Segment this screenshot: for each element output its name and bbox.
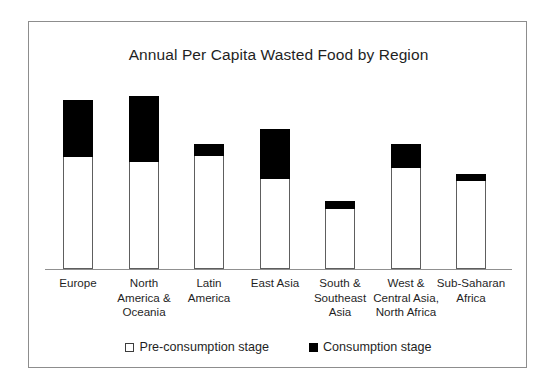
legend-item-consumption[interactable]: Consumption stage bbox=[309, 340, 432, 354]
bar-segment-consumption[interactable] bbox=[129, 96, 159, 162]
bar-stack bbox=[325, 201, 355, 269]
bar-segment-consumption[interactable] bbox=[325, 201, 355, 209]
bar-segment-pre-consumption[interactable] bbox=[391, 168, 421, 269]
bar-stack bbox=[63, 100, 93, 269]
bar-segment-consumption[interactable] bbox=[391, 144, 421, 168]
bar-segment-consumption[interactable] bbox=[260, 129, 290, 179]
bar-segment-pre-consumption[interactable] bbox=[63, 157, 93, 269]
bar-group-sub-saharan-africa bbox=[456, 174, 486, 269]
plot-area bbox=[29, 22, 528, 270]
x-axis-line bbox=[45, 269, 512, 270]
bar-group-europe bbox=[63, 100, 93, 269]
category-label-line: North Africa bbox=[363, 305, 449, 320]
bar-segment-pre-consumption[interactable] bbox=[194, 156, 224, 269]
bar-segment-consumption[interactable] bbox=[456, 174, 486, 181]
bar-stack bbox=[260, 129, 290, 269]
bar-group-west-central-asia-north-africa bbox=[391, 144, 421, 269]
bar-segment-consumption[interactable] bbox=[194, 144, 224, 156]
legend-swatch-white-square-icon bbox=[125, 343, 134, 352]
bar-segment-pre-consumption[interactable] bbox=[456, 181, 486, 269]
bar-group-east-asia bbox=[260, 129, 290, 269]
chart-legend: Pre-consumption stage Consumption stage bbox=[29, 340, 528, 354]
bar-group-south-southeast-asia bbox=[325, 201, 355, 269]
category-label-line: Sub-Saharan bbox=[429, 276, 513, 291]
chart-frame: Annual Per Capita Wasted Food by Region bbox=[28, 21, 527, 368]
category-label-line: Oceania bbox=[104, 305, 184, 320]
category-label-line: Africa bbox=[429, 291, 513, 306]
category-label-line: America bbox=[169, 291, 249, 306]
bar-segment-pre-consumption[interactable] bbox=[260, 179, 290, 269]
legend-item-pre-consumption[interactable]: Pre-consumption stage bbox=[125, 340, 269, 354]
bar-group-north-america-oceania bbox=[129, 96, 159, 269]
x-axis-category-labels: Europe North America & Oceania Latin Ame… bbox=[29, 272, 528, 338]
bar-segment-pre-consumption[interactable] bbox=[129, 162, 159, 269]
category-label-sub-saharan-africa: Sub-Saharan Africa bbox=[429, 276, 513, 305]
bar-segment-pre-consumption[interactable] bbox=[325, 209, 355, 269]
bar-stack bbox=[194, 144, 224, 269]
legend-label: Consumption stage bbox=[323, 340, 432, 354]
bar-segment-consumption[interactable] bbox=[63, 100, 93, 157]
bar-stack bbox=[129, 96, 159, 269]
bar-stack bbox=[391, 144, 421, 269]
legend-swatch-black-square-icon bbox=[309, 343, 318, 352]
bar-stack bbox=[456, 174, 486, 269]
bar-group-latin-america bbox=[194, 144, 224, 269]
legend-label: Pre-consumption stage bbox=[139, 340, 269, 354]
figure-root: Annual Per Capita Wasted Food by Region bbox=[0, 0, 552, 390]
